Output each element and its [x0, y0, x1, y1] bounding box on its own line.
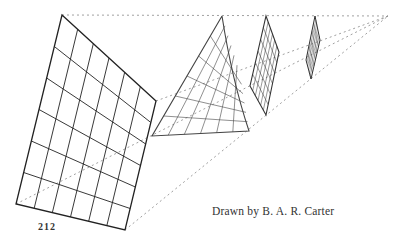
figure-caption: Drawn by B. A. R. Carter: [212, 205, 334, 217]
page-number: 212: [38, 221, 56, 232]
construction-lines: [16, 15, 388, 230]
grid-shape-3: [250, 16, 279, 115]
grid-shape-2: [152, 16, 249, 136]
grid-shape-1: [16, 15, 156, 230]
perspective-diagram: [0, 0, 403, 247]
grid-shape-4: [306, 16, 320, 79]
figure-page: 212 Drawn by B. A. R. Carter: [0, 0, 403, 247]
